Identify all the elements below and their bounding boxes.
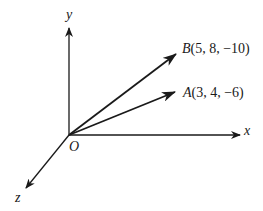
vector-a-arrow [69,92,175,135]
vector-a-name: A [183,85,192,100]
diagram-lines [0,0,263,211]
vector-diagram: y x z O B(5, 8, −10) A(3, 4, −6) [0,0,263,211]
y-axis-label: y [66,8,72,22]
vector-b-name: B [182,41,191,56]
z-axis-label: z [15,191,20,205]
origin-label: O [69,140,79,154]
vector-b-arrow [69,54,176,135]
vector-a-coords: (3, 4, −6) [192,85,244,100]
vector-a-label: A(3, 4, −6) [183,86,244,100]
z-axis [26,135,69,188]
vector-b-label: B(5, 8, −10) [182,42,250,56]
x-axis-label: x [244,124,250,138]
vector-b-coords: (5, 8, −10) [191,41,250,56]
